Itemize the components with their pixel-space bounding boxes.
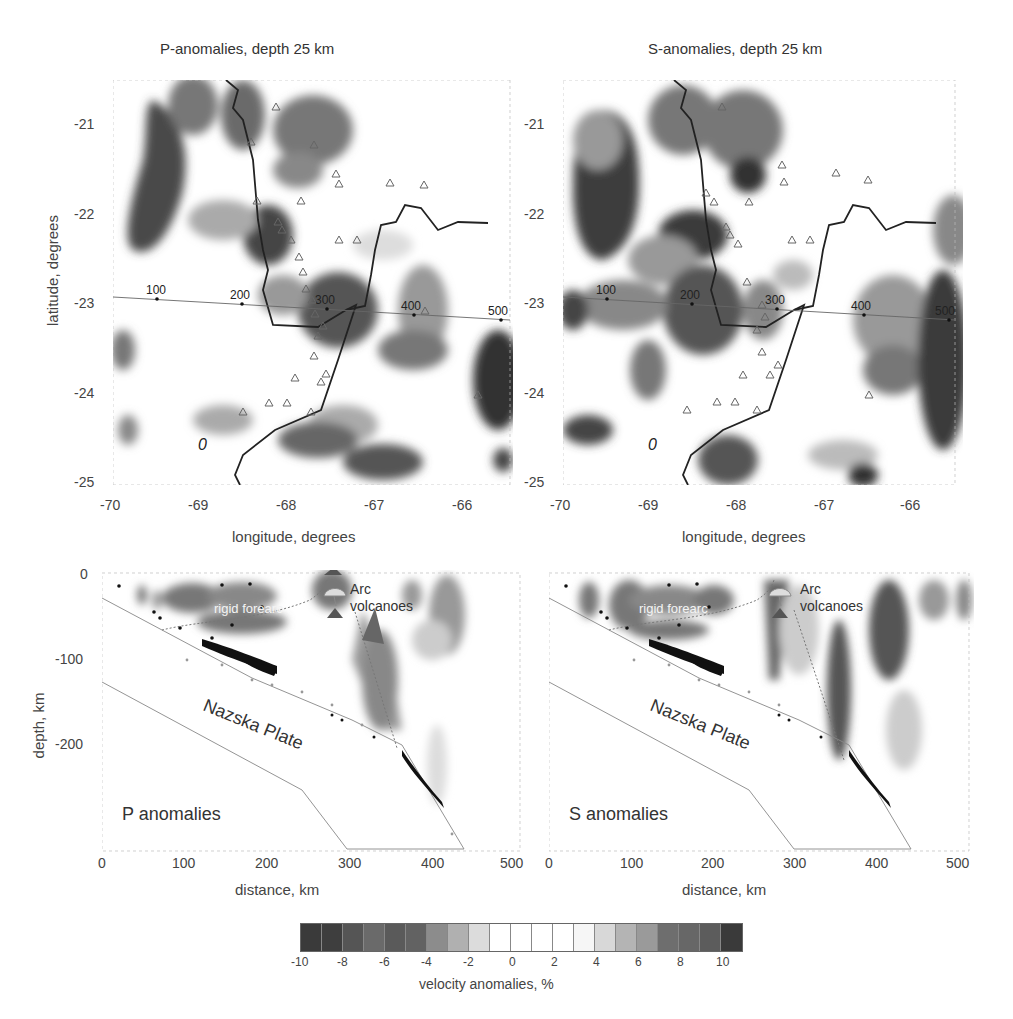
colorbar-swatch xyxy=(469,924,490,951)
s-lon-tick-67: -67 xyxy=(814,497,834,513)
cbar-tick-10: 10 xyxy=(716,955,729,969)
s-lon-tick-66: -66 xyxy=(900,497,920,513)
p-section-xlabel: distance, km xyxy=(235,881,319,898)
profile-mark-200: 200 xyxy=(230,288,250,302)
s-dist-tick-100: 100 xyxy=(620,855,643,871)
colorbar-swatch xyxy=(679,924,700,951)
s-lon-tick-70: -70 xyxy=(550,497,570,513)
p-depth-tick-200: -200 xyxy=(55,736,83,752)
s-dist-tick-300: 300 xyxy=(783,855,806,871)
s-map-plot: 100 200 300 400 500 0 xyxy=(563,80,963,485)
p-map-title: P-anomalies, depth 25 km xyxy=(160,40,334,57)
cbar-tick-2: 2 xyxy=(551,955,558,969)
colorbar-swatch xyxy=(574,924,595,951)
s-dist-tick-500: 500 xyxy=(946,855,969,871)
profile-mark-100: 100 xyxy=(146,283,166,297)
p-forearc-label: rigid forearc xyxy=(214,601,283,616)
p-lat-tick-23: -23 xyxy=(74,295,94,311)
p-lat-tick-22: -22 xyxy=(74,206,94,222)
cbar-tick-4: 4 xyxy=(593,955,600,969)
p-plate-label: Nazska Plate xyxy=(201,695,307,753)
p-section-label: P anomalies xyxy=(122,804,221,824)
colorbar-swatch xyxy=(406,924,427,951)
p-arc-label-1: Arc xyxy=(350,581,371,597)
p-dist-tick-0: 0 xyxy=(98,855,106,871)
s-lon-tick-69: -69 xyxy=(638,497,658,513)
s-dist-tick-0: 0 xyxy=(545,855,553,871)
s-profile-mark-300: 300 xyxy=(765,293,785,307)
s-dist-tick-400: 400 xyxy=(865,855,888,871)
colorbar-swatch xyxy=(385,924,406,951)
s-profile-mark-100: 100 xyxy=(596,283,616,297)
p-lat-tick-25: -25 xyxy=(74,474,94,490)
s-zero-contour-label: 0 xyxy=(648,436,657,453)
s-section-label: S anomalies xyxy=(569,804,668,824)
colorbar-swatch xyxy=(658,924,679,951)
s-section-plot: rigid forearc Nazska Plate S anomalies xyxy=(549,570,974,855)
colorbar-swatch xyxy=(364,924,385,951)
p-dist-tick-500: 500 xyxy=(500,855,523,871)
colorbar-swatch xyxy=(322,924,343,951)
cbar-tick-8: 8 xyxy=(677,955,684,969)
cbar-tick-m8: -8 xyxy=(337,955,348,969)
colorbar-swatch xyxy=(343,924,364,951)
p-arc-label-2: volcanoes xyxy=(350,598,413,614)
zero-contour-label: 0 xyxy=(198,436,207,453)
s-lat-tick-22: -22 xyxy=(524,206,544,222)
p-dist-tick-200: 200 xyxy=(255,855,278,871)
s-map-title: S-anomalies, depth 25 km xyxy=(648,40,822,57)
colorbar-swatch xyxy=(427,924,448,951)
cbar-tick-m2: -2 xyxy=(463,955,474,969)
cbar-tick-0: 0 xyxy=(509,955,516,969)
s-profile-mark-200: 200 xyxy=(680,288,700,302)
profile-mark-500: 500 xyxy=(488,304,508,318)
colorbar-swatch xyxy=(616,924,637,951)
s-lat-tick-24: -24 xyxy=(524,385,544,401)
s-arc-label-2: volcanoes xyxy=(800,598,863,614)
p-depth-tick-0: 0 xyxy=(80,566,88,582)
profile-mark-400: 400 xyxy=(401,299,421,313)
s-profile-mark-500: 500 xyxy=(935,304,955,318)
p-lon-tick-67: -67 xyxy=(364,497,384,513)
p-section-ylabel: depth, km xyxy=(30,676,47,776)
p-lon-tick-70: -70 xyxy=(100,497,120,513)
p-map-xlabel: longitude, degrees xyxy=(232,528,355,545)
s-lat-tick-25: -25 xyxy=(524,474,544,490)
s-profile-mark-400: 400 xyxy=(851,299,871,313)
colorbar xyxy=(300,923,743,952)
p-lat-tick-24: -24 xyxy=(74,385,94,401)
cbar-tick-6: 6 xyxy=(635,955,642,969)
s-plate-label: Nazska Plate xyxy=(648,695,754,753)
s-map-xlabel: longitude, degrees xyxy=(682,528,805,545)
colorbar-swatch xyxy=(301,924,322,951)
p-depth-tick-100: -100 xyxy=(55,651,83,667)
p-map-ylabel: latitude, degrees xyxy=(44,201,61,341)
colorbar-swatch xyxy=(553,924,574,951)
p-dist-tick-400: 400 xyxy=(421,855,444,871)
colorbar-swatch xyxy=(448,924,469,951)
s-section-xlabel: distance, km xyxy=(682,881,766,898)
colorbar-swatch xyxy=(700,924,721,951)
colorbar-swatch xyxy=(595,924,616,951)
p-map-plot: 100 200 300 400 500 0 xyxy=(113,80,513,485)
volcano-icon-s xyxy=(767,584,801,620)
s-lon-tick-68: -68 xyxy=(726,497,746,513)
colorbar-swatch xyxy=(637,924,658,951)
p-lat-tick-21: -21 xyxy=(74,116,94,132)
colorbar-swatch xyxy=(511,924,532,951)
p-dist-tick-300: 300 xyxy=(338,855,361,871)
p-dist-tick-100: 100 xyxy=(172,855,195,871)
colorbar-swatch xyxy=(721,924,742,951)
s-lat-tick-21: -21 xyxy=(524,116,544,132)
p-section-plot: rigid forearc Nazska Plate P anomalies xyxy=(102,570,522,855)
cbar-tick-m4: -4 xyxy=(421,955,432,969)
cbar-tick-m6: -6 xyxy=(379,955,390,969)
p-lon-tick-66: -66 xyxy=(452,497,472,513)
p-lon-tick-68: -68 xyxy=(276,497,296,513)
profile-mark-300: 300 xyxy=(315,293,335,307)
p-lon-tick-69: -69 xyxy=(188,497,208,513)
colorbar-label: velocity anomalies, % xyxy=(419,976,554,992)
s-dist-tick-200: 200 xyxy=(701,855,724,871)
colorbar-swatch xyxy=(490,924,511,951)
s-lat-tick-23: -23 xyxy=(524,295,544,311)
